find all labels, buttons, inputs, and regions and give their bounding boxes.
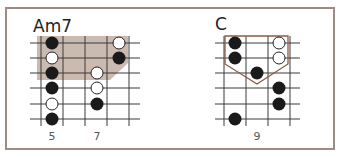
filled-note-dot [46, 82, 59, 95]
open-note-dot [273, 52, 285, 64]
open-note-dot [113, 37, 125, 49]
filled-note-dot [273, 82, 286, 95]
open-note-dot [46, 98, 58, 110]
fretboard-c [215, 36, 300, 126]
fretboard-graphics [0, 0, 340, 158]
fretboard-am7 [30, 36, 140, 126]
filled-note-dot [229, 113, 242, 126]
open-note-dot [273, 37, 285, 49]
open-note-dot [46, 52, 58, 64]
open-note-dot [91, 82, 103, 94]
filled-note-dot [251, 67, 264, 80]
filled-note-dot [273, 98, 286, 111]
filled-note-dot [229, 52, 242, 65]
filled-note-dot [229, 37, 242, 50]
filled-note-dot [91, 98, 104, 111]
filled-note-dot [46, 37, 59, 50]
filled-note-dot [46, 67, 59, 80]
chord-diagram-panel: Am7 C 5 7 9 [0, 0, 340, 158]
filled-note-dot [113, 52, 126, 65]
open-note-dot [91, 67, 103, 79]
filled-note-dot [46, 113, 59, 126]
